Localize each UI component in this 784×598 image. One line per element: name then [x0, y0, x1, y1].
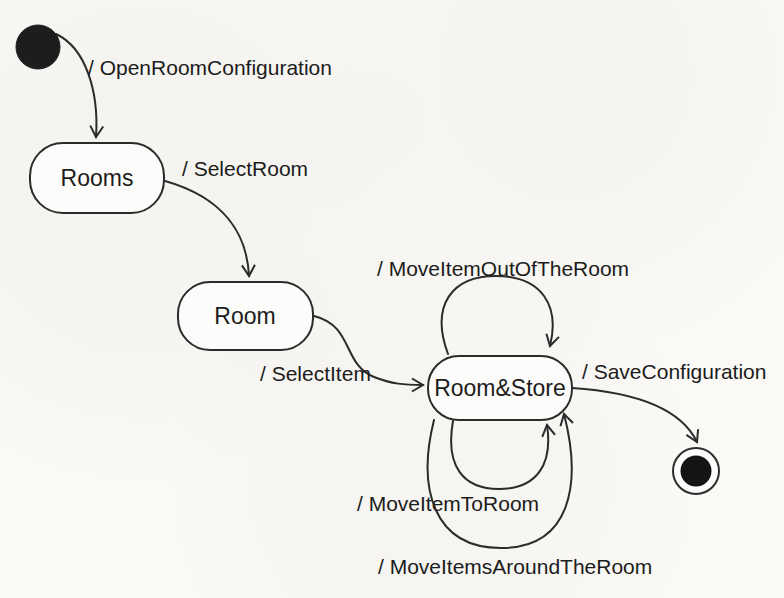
state-rooms-label: Rooms — [61, 165, 134, 191]
state-room-label: Room — [214, 303, 275, 329]
transition-select-room-edge — [165, 181, 249, 276]
state-rooms: Rooms — [30, 143, 164, 213]
transition-move-item-to-room-edge — [451, 421, 548, 489]
transition-move-item-out-of-the-room: / MoveItemOutOfTheRoom — [377, 257, 629, 354]
transition-open-room-configuration-edge — [56, 34, 96, 137]
transition-save-configuration-label: / SaveConfiguration — [582, 360, 766, 383]
transition-open-room-configuration-label: / OpenRoomConfiguration — [88, 56, 332, 79]
transition-move-items-around-the-room-label: / MoveItemsAroundTheRoom — [378, 555, 652, 578]
transition-select-room: / SelectRoom — [165, 157, 308, 276]
transition-move-item-out-of-the-room-label: / MoveItemOutOfTheRoom — [377, 257, 629, 280]
transition-select-item-label: / SelectItem — [260, 362, 371, 385]
transition-move-item-to-room-label: / MoveItemToRoom — [357, 492, 539, 515]
transition-open-room-configuration: / OpenRoomConfiguration — [56, 34, 332, 137]
state-room-and-store-label: Room&Store — [434, 375, 566, 401]
final-state — [673, 448, 719, 494]
state-room: Room — [178, 282, 313, 350]
transition-move-items-around-the-room-edge — [428, 414, 572, 548]
initial-state-icon — [16, 25, 60, 69]
transition-move-item-to-room: / MoveItemToRoom — [357, 421, 548, 515]
transition-save-configuration-edge — [572, 388, 697, 442]
final-state-icon — [681, 456, 712, 487]
transition-move-item-out-of-the-room-edge — [442, 276, 553, 354]
state-room-and-store: Room&Store — [428, 356, 572, 420]
initial-state — [16, 25, 60, 69]
transition-select-room-label: / SelectRoom — [182, 157, 308, 180]
transition-save-configuration: / SaveConfiguration — [572, 360, 766, 442]
state-machine-diagram: / OpenRoomConfiguration / SelectRoom / S… — [0, 0, 784, 598]
